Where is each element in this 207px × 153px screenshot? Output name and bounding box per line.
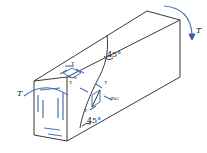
torque-arrow-right-icon (164, 6, 192, 34)
shaft-box (34, 11, 180, 141)
label-tau-side-left: τ (84, 106, 88, 113)
label-tau-top-upper: τ (71, 59, 75, 66)
label-sigma: σ₄₅ (110, 94, 120, 101)
arrow-icon (48, 134, 62, 136)
arrow-icon (96, 84, 102, 88)
label-angle-top: 45° (107, 50, 121, 59)
arrow-icon (80, 88, 88, 92)
front-face (34, 77, 67, 141)
label-tau-top-lower: τ (69, 78, 73, 85)
top-face (34, 11, 180, 81)
front-face-stress-arrows (38, 88, 63, 136)
label-tau-side-right: τ (104, 78, 108, 85)
side-face (67, 20, 180, 141)
label-angle-bottom: 45° (87, 116, 101, 125)
label-torque-left: T (17, 89, 23, 98)
arrowhead-icon (189, 34, 195, 40)
torsion-diagram: T T τ τ τ τ σ₄₅ 45° 45° (0, 0, 207, 153)
stress-element-top (60, 66, 84, 78)
arrow-icon (44, 128, 60, 130)
label-torque-right: T (196, 26, 202, 35)
